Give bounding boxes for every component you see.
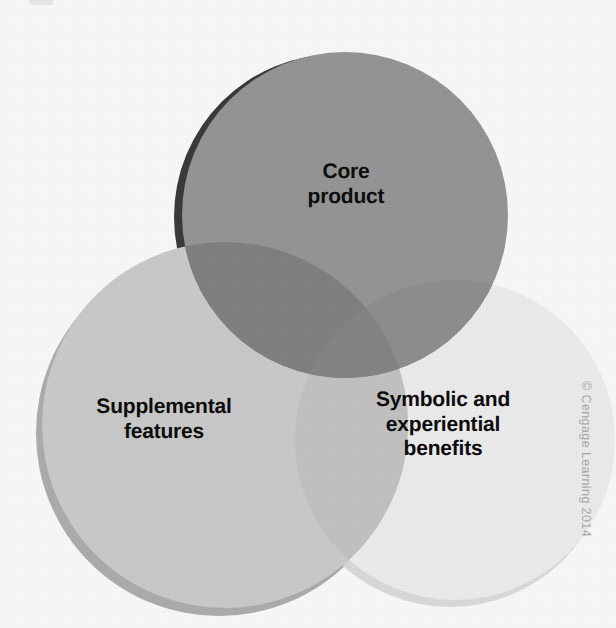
label-core-product: Core product <box>248 160 444 209</box>
venn-diagram <box>0 0 616 628</box>
label-symbolic-experiential-benefits: Symbolic and experiential benefits <box>345 388 541 462</box>
label-supplemental-features: Supplemental features <box>58 395 270 444</box>
figure-container: Core product Supplemental features Symbo… <box>0 0 616 628</box>
figure-number-artifact <box>29 0 53 5</box>
copyright-credit: © Cengage Learning 2014 <box>579 381 593 545</box>
